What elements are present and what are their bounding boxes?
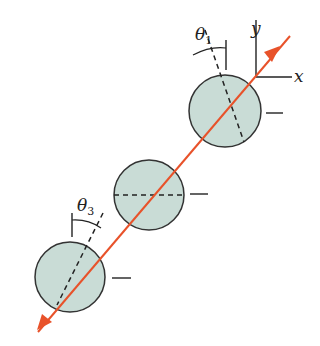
y-axis-label: y	[250, 18, 261, 38]
beam-line	[38, 36, 290, 332]
polarizing-sheet-1: θ1	[189, 24, 283, 147]
theta-3-label: θ3	[77, 195, 94, 218]
light-beam	[37, 36, 290, 332]
polarizing-sheet-2	[114, 160, 208, 230]
beam-arrow-bottom-icon	[37, 314, 52, 330]
x-axis-label: x	[294, 66, 304, 86]
angle-arc-1	[193, 48, 226, 55]
angle-arc-3	[72, 220, 101, 228]
theta-1-label: θ1	[195, 24, 212, 47]
beam-arrow-top-icon	[264, 46, 280, 62]
polarizer-diagram: y x θ1 θ3	[0, 0, 320, 346]
disk-3	[35, 242, 105, 312]
polarizing-sheet-3: θ3	[35, 195, 131, 312]
